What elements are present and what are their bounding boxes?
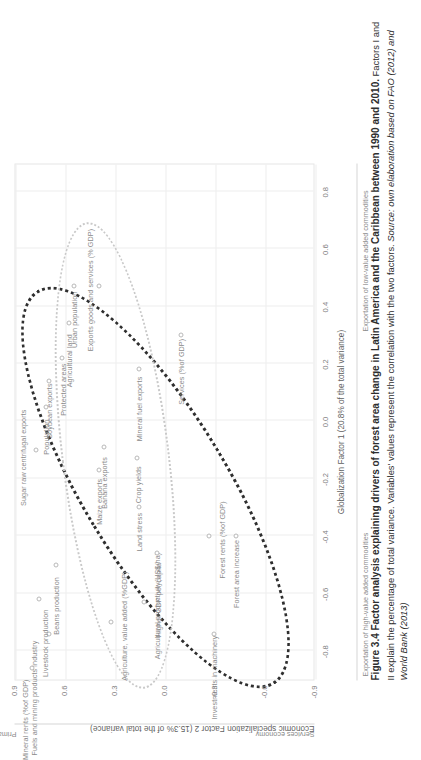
data-point (178, 332, 183, 337)
x-tick-label: 0.6 (320, 244, 329, 255)
y-tick-label: -0.3 (210, 685, 219, 711)
x-tick-label: 0.8 (320, 186, 329, 197)
data-point (136, 504, 141, 509)
x-tick-label: -0.6 (320, 587, 329, 600)
x-tick-label: -0.4 (320, 530, 329, 543)
y-high-pole-label: Primary economy (0, 729, 16, 738)
data-point-label: Mineral fuel exports (135, 376, 143, 441)
data-point (59, 355, 64, 360)
data-point (36, 596, 41, 601)
data-point-label: Land stress (135, 512, 143, 550)
data-point (206, 533, 211, 538)
data-point (134, 455, 139, 460)
x-axis-range-arrow (356, 163, 357, 680)
data-point (154, 550, 159, 555)
data-point-label: Forest area increase (232, 539, 240, 607)
x-tick-label: 0.0 (320, 416, 329, 427)
data-point-label: Agriculture, value added (%GDP) (120, 571, 128, 680)
y-axis-range-arrow (14, 723, 314, 724)
data-point (108, 619, 113, 624)
data-point (136, 366, 141, 371)
data-point-label: Forest rents (%of GDP) (218, 501, 226, 578)
data-point (141, 599, 146, 604)
data-point-label: Livestock production (41, 609, 49, 677)
data-point (53, 562, 58, 567)
x-axis-title: Globalization Factor 1 (20.8% of the tot… (336, 163, 345, 680)
y-tick-label: 0.0 (160, 685, 169, 711)
figure-caption-title: Figure 3.4 Factor analysis explaining dr… (369, 78, 380, 680)
data-point-label: Exports goods and services (% GDP) (86, 228, 94, 350)
x-tick-label: 0.4 (320, 301, 329, 312)
y-tick-label: 0.9 (10, 685, 19, 711)
data-point-label: Beans production (52, 577, 60, 635)
y-low-pole-label: Services economy (255, 729, 314, 738)
data-point-label: Higher GDP per capita (154, 562, 162, 636)
x-gridline (15, 190, 313, 191)
x-tick-label: -0.2 (320, 472, 329, 485)
x-tick-label: 0.2 (320, 359, 329, 370)
data-point (96, 283, 101, 288)
y-gridline (315, 164, 316, 679)
data-point-label: Banana exports (100, 457, 108, 509)
data-point (101, 444, 106, 449)
y-tick-label: 0.6 (60, 685, 69, 711)
data-point-label: Soybean exports (45, 383, 53, 438)
y-tick-label: -0.9 (310, 685, 319, 711)
figure-caption: Figure 3.4 Factor analysis explaining dr… (368, 20, 410, 680)
data-point-label: Crop yields (134, 466, 142, 503)
x-gridline (15, 247, 313, 248)
data-point-label: Sugar raw centrifugal exports (19, 409, 27, 505)
data-point-label: Mineral rents (%of GDP) (21, 679, 29, 760)
y-gridline (15, 164, 16, 679)
data-point (71, 283, 76, 288)
data-point-label: Fuels and mining products industry (30, 640, 38, 755)
data-point (46, 378, 51, 383)
x-tick-label: -0.8 (320, 645, 329, 658)
y-tick-label: -0.6 (260, 685, 269, 711)
data-point-label: Services (%of GDP) (177, 338, 185, 404)
data-point (33, 447, 38, 452)
plot-area: Mineral rents (%of GDP)Fuels and mining … (14, 163, 314, 680)
data-point (233, 533, 238, 538)
y-tick-label: 0.3 (110, 685, 119, 711)
data-point-label: Urban population (70, 291, 78, 347)
